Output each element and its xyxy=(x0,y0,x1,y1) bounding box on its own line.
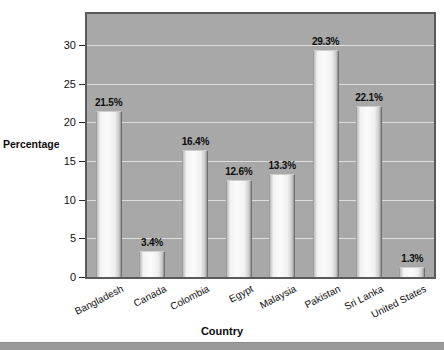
bar-value-label: 21.5% xyxy=(85,97,137,108)
gridline xyxy=(87,122,434,123)
plot-area: 21.5%3.4%16.4%12.6%13.3%29.3%22.1%1.3% xyxy=(85,12,436,279)
bar-value-label: 13.3% xyxy=(254,160,310,171)
bar xyxy=(96,111,122,277)
bar-value-label: 1.3% xyxy=(384,253,436,264)
x-tick-label: Egypt xyxy=(227,283,255,304)
y-tick-label: 15 xyxy=(64,155,76,167)
bar xyxy=(139,251,165,277)
y-tick-label: 25 xyxy=(64,78,76,90)
bar-value-label: 29.3% xyxy=(298,36,354,47)
bar-chart-figure: 051015202530 Percentage 21.5%3.4%16.4%12… xyxy=(0,0,444,350)
bar xyxy=(226,180,252,277)
bar xyxy=(313,50,339,277)
y-tick-label: 0 xyxy=(70,271,76,283)
gridline xyxy=(87,84,434,85)
bar xyxy=(182,150,208,277)
y-tick-label: 5 xyxy=(70,232,76,244)
bar-value-label: 22.1% xyxy=(341,92,397,103)
y-tick-label: 10 xyxy=(64,194,76,206)
x-tick-label: Bangladesh xyxy=(73,283,125,317)
bar-value-label: 16.4% xyxy=(167,136,223,147)
bottom-divider xyxy=(0,342,444,350)
gridline xyxy=(87,45,434,46)
bar xyxy=(269,174,295,277)
x-tick-label: Colombia xyxy=(169,283,212,312)
x-axis: BangladeshCanadaColombiaEgyptMalaysiaPak… xyxy=(85,279,436,327)
y-tick-label: 20 xyxy=(64,116,76,128)
gridline xyxy=(87,200,434,201)
bar xyxy=(356,106,382,277)
bar xyxy=(399,267,425,277)
x-tick-label: Malaysia xyxy=(258,283,298,311)
x-tick-label: Pakistan xyxy=(302,283,341,310)
bar-value-label: 3.4% xyxy=(124,237,180,248)
plot-inner: 21.5%3.4%16.4%12.6%13.3%29.3%22.1%1.3% xyxy=(87,14,434,277)
y-tick-label: 30 xyxy=(64,39,76,51)
x-axis-title: Country xyxy=(0,325,444,337)
y-axis-title: Percentage xyxy=(3,138,60,150)
x-tick-label: Canada xyxy=(132,283,168,309)
